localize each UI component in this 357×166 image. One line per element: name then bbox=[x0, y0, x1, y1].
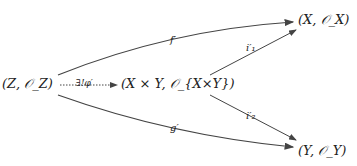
label-phi: ∃!φ′ bbox=[76, 78, 93, 88]
label-i1: i′₁ bbox=[246, 42, 255, 53]
label-i2: i′₂ bbox=[246, 110, 255, 121]
node-product: (X × Y, 𝒪_{X×Y}) bbox=[121, 76, 235, 92]
arrow-g bbox=[58, 95, 293, 147]
node-y: (Y, 𝒪_Y) bbox=[298, 143, 346, 159]
label-f: f′ bbox=[170, 34, 176, 45]
arrow-f bbox=[58, 22, 293, 75]
node-z: (Z, 𝒪_Z) bbox=[2, 76, 53, 92]
commutative-diagram: (Z, 𝒪_Z) (X × Y, 𝒪_{X×Y}) (X, 𝒪_X) (Y, 𝒪… bbox=[0, 0, 357, 166]
node-x: (X, 𝒪_X) bbox=[298, 12, 349, 28]
label-g: g′ bbox=[170, 122, 179, 133]
